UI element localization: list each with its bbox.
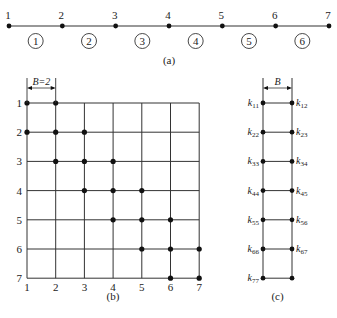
node-dot xyxy=(167,24,172,29)
node-dot xyxy=(220,24,225,29)
k-label-left: k77 xyxy=(248,272,260,285)
node-label: 5 xyxy=(219,9,225,21)
row-label: 4 xyxy=(17,185,23,197)
row-label: 7 xyxy=(17,272,23,284)
row-label: 3 xyxy=(17,155,23,167)
k-label-right: k56 xyxy=(296,214,308,227)
nonzero-dot xyxy=(139,246,144,251)
col-label: 6 xyxy=(168,281,174,293)
diag-dot xyxy=(261,159,266,164)
col-label: 2 xyxy=(53,281,59,293)
node-dot xyxy=(7,24,12,29)
node-dot xyxy=(327,24,332,29)
diag-dot xyxy=(261,188,266,193)
nonzero-dot xyxy=(82,130,87,135)
k-label-right: k12 xyxy=(296,97,308,110)
element-label: 6 xyxy=(300,35,306,47)
node-label: 3 xyxy=(112,9,118,21)
diag-dot xyxy=(261,217,266,222)
caption-a: (a) xyxy=(163,54,176,67)
k-label-left: k22 xyxy=(248,126,260,139)
nonzero-dot xyxy=(168,246,173,251)
diag-dot xyxy=(261,247,266,252)
row-label: 1 xyxy=(17,97,23,109)
row-label: 6 xyxy=(17,243,23,255)
element-label: 2 xyxy=(86,35,92,47)
node-dot xyxy=(113,24,118,29)
k-label-right: k23 xyxy=(296,126,308,139)
row-label: 2 xyxy=(17,126,23,138)
k-label-right: k34 xyxy=(296,155,308,168)
offdiag-dot xyxy=(290,130,295,135)
offdiag-dot xyxy=(290,101,295,106)
element-label: 4 xyxy=(193,35,199,47)
offdiag-dot xyxy=(290,159,295,164)
diag-dot xyxy=(261,101,266,106)
k-label-left: k66 xyxy=(248,243,260,256)
nonzero-dot xyxy=(111,188,116,193)
node-dot xyxy=(273,24,278,29)
element-label: 1 xyxy=(33,35,39,47)
bandwidth-label: B=2 xyxy=(32,76,50,87)
offdiag-dot xyxy=(290,247,295,252)
nonzero-dot xyxy=(111,159,116,164)
figure: 1234567123456(a)11223344556677B=2(b)Bk11… xyxy=(0,0,337,318)
col-label: 3 xyxy=(82,281,88,293)
node-label: 4 xyxy=(165,9,171,21)
element-label: 3 xyxy=(140,35,146,47)
node-label: 2 xyxy=(59,9,65,21)
diag-dot xyxy=(261,276,266,281)
caption-c: (c) xyxy=(271,290,284,303)
nonzero-dot xyxy=(111,217,116,222)
nonzero-dot xyxy=(168,276,173,281)
k-label-left: k33 xyxy=(248,155,260,168)
nonzero-dot xyxy=(82,159,87,164)
col-label: 1 xyxy=(24,281,30,293)
bandwidth-label-c: B xyxy=(274,76,280,87)
k-label-right: k45 xyxy=(296,185,308,198)
nonzero-dot xyxy=(82,188,87,193)
nonzero-dot xyxy=(53,159,58,164)
k-label-right: k67 xyxy=(296,243,308,256)
nonzero-dot xyxy=(139,188,144,193)
nonzero-dot xyxy=(197,276,202,281)
diagram-canvas: 1234567123456(a)11223344556677B=2(b)Bk11… xyxy=(0,0,337,318)
nonzero-dot xyxy=(197,246,202,251)
k-label-left: k55 xyxy=(248,214,260,227)
offdiag-dot xyxy=(290,276,295,281)
row-label: 5 xyxy=(17,214,23,226)
nonzero-dot xyxy=(139,217,144,222)
col-label: 7 xyxy=(196,281,202,293)
nonzero-dot xyxy=(24,130,29,135)
k-label-left: k11 xyxy=(248,97,260,110)
node-label: 6 xyxy=(272,9,278,21)
node-dot xyxy=(60,24,65,29)
col-label: 5 xyxy=(139,281,145,293)
diag-dot xyxy=(261,130,266,135)
element-label: 5 xyxy=(246,35,252,47)
node-label: 1 xyxy=(5,9,11,21)
offdiag-dot xyxy=(290,217,295,222)
caption-b: (b) xyxy=(107,290,120,303)
k-label-left: k44 xyxy=(248,185,260,198)
offdiag-dot xyxy=(290,188,295,193)
nonzero-dot xyxy=(168,217,173,222)
nonzero-dot xyxy=(53,130,58,135)
node-label: 7 xyxy=(325,9,331,21)
